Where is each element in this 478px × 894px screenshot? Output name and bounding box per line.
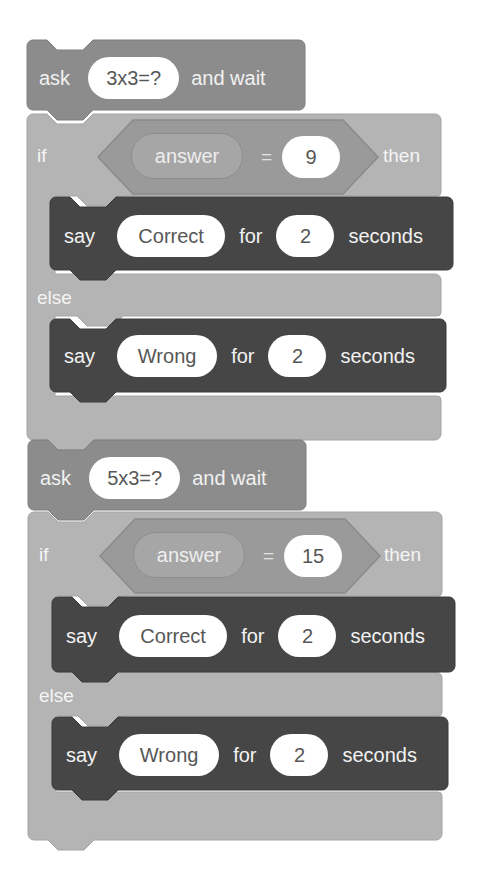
for-label: for [239,225,262,248]
else-label: else [39,685,74,707]
ask-question-input[interactable]: 5x3=? [89,457,180,499]
then-label: then [383,145,420,167]
compare-value-input[interactable]: 15 [284,535,342,577]
ask-question-input[interactable]: 3x3=? [88,57,179,99]
say-seconds-input[interactable]: 2 [278,615,336,657]
ask-keyword: ask [40,467,71,490]
seconds-label: seconds [340,345,415,368]
say-keyword: say [66,625,97,648]
say-message-input[interactable]: Wrong [119,734,219,776]
for-label: for [231,345,254,368]
answer-reporter[interactable]: answer [131,133,243,179]
say-keyword: say [64,225,95,248]
say-wrong-block-2[interactable]: say Wrong for 2 seconds [52,716,450,804]
equals-operator-2[interactable]: answer = 15 [99,518,381,594]
equals-operator-1[interactable]: answer = 9 [97,119,379,195]
say-correct-block-1[interactable]: say Correct for 2 seconds [50,196,455,282]
say-seconds-input[interactable]: 2 [276,215,334,257]
for-label: for [241,625,264,648]
seconds-label: seconds [342,744,417,767]
if-label: if [37,145,47,167]
say-message-input[interactable]: Correct [117,215,225,257]
say-seconds-input[interactable]: 2 [270,734,328,776]
say-message-input[interactable]: Wrong [117,335,217,377]
equals-sign: = [263,545,274,567]
ask-suffix: and wait [192,467,267,490]
answer-reporter[interactable]: answer [133,532,245,578]
say-wrong-block-1[interactable]: say Wrong for 2 seconds [50,318,448,404]
seconds-label: seconds [350,625,425,648]
say-message-input[interactable]: Correct [119,615,227,657]
for-label: for [233,744,256,767]
then-label: then [384,544,421,566]
ask-block-2[interactable]: ask 5x3=? and wait [28,440,308,520]
seconds-label: seconds [348,225,423,248]
ask-keyword: ask [39,67,70,90]
say-seconds-input[interactable]: 2 [268,335,326,377]
say-correct-block-2[interactable]: say Correct for 2 seconds [52,596,457,682]
ask-suffix: and wait [191,67,266,90]
equals-sign: = [261,146,272,168]
say-keyword: say [66,744,97,767]
ask-block-1[interactable]: ask 3x3=? and wait [27,40,307,118]
compare-value-input[interactable]: 9 [282,136,340,178]
say-keyword: say [64,345,95,368]
else-label: else [37,287,72,309]
if-label: if [39,544,49,566]
